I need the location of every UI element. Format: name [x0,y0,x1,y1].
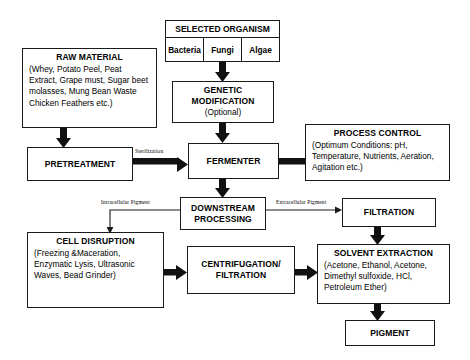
arrow-filtration-to-solvent [370,227,385,245]
solvent-extraction-body: (Acetone, Ethanol, Acetone, Dimethyl sul… [320,260,447,294]
edge-label-sterilization: Sterilization [135,148,163,154]
cell-disruption-body: (Freezing &Maceration, Enzymatic Lysis, … [30,248,161,282]
arrow-organism-to-genetic [215,61,230,82]
downstream-processing-title-line2: PROCESSING [194,214,252,225]
organism-cell-fungi[interactable]: Fungi [204,38,242,61]
organism-cell-bacteria[interactable]: Bacteria [166,38,204,61]
node-filtration[interactable]: FILTRATION [342,198,436,227]
arrow-celldisruption-to-centrifugation [164,265,187,280]
arrow-downstream-to-filtration [266,207,342,214]
node-selected-organism[interactable]: SELECTED ORGANISM Bacteria Fungi Algae [165,20,280,62]
node-fermenter[interactable]: FERMENTER [188,143,279,179]
node-raw-material[interactable]: RAW MATERIAL (Whey, Potato Peel, Peat Ex… [22,48,157,128]
genetic-modification-title-line2: MODIFICATION [192,96,255,107]
genetic-modification-subtitle: (Optional) [173,107,273,118]
node-pigment[interactable]: PIGMENT [345,320,435,346]
edge-label-extracellular-pigment: Extracellular Pigment [276,199,326,205]
raw-material-title: RAW MATERIAL [25,52,154,63]
process-control-title: PROCESS CONTROL [308,128,447,139]
node-genetic-modification[interactable]: GENETIC MODIFICATION (Optional) [172,81,274,123]
downstream-processing-title-line1: DOWNSTREAM [191,203,255,214]
arrow-rawmaterial-to-pretreatment [56,128,71,148]
pigment-production-flowchart: SELECTED ORGANISM Bacteria Fungi Algae R… [0,0,470,360]
arrow-genetic-to-fermenter [215,123,230,143]
node-centrifugation-filtration[interactable]: CENTRIFUGATION/ FILTRATION [187,246,295,294]
centrifugation-title-line1: CENTRIFUGATION/ [201,259,280,270]
node-pretreatment[interactable]: PRETREATMENT [27,147,133,181]
centrifugation-title-line2: FILTRATION [216,270,266,281]
process-control-body: (Optimum Conditions: pH, Temperature, Nu… [308,140,447,174]
arrow-pretreatment-to-fermenter [133,157,188,172]
solvent-extraction-title: SOLVENT EXTRACTION [320,248,447,259]
node-process-control[interactable]: PROCESS CONTROL (Optimum Conditions: pH,… [305,124,450,181]
pretreatment-title: PRETREATMENT [45,159,115,170]
genetic-modification-title-line1: GENETIC [204,85,242,96]
arrow-centrifugation-to-solvent [295,265,318,280]
arrow-fermenter-to-downstream [215,179,230,198]
organism-cell-algae[interactable]: Algae [242,38,279,61]
selected-organism-row: Bacteria Fungi Algae [166,38,279,61]
raw-material-body: (Whey, Potato Peel, Peat Extract, Grape … [25,64,154,109]
edge-label-intracellular-pigment: Intracellular Pigment [101,199,150,205]
arrow-downstream-to-celldisruption [107,210,180,234]
node-solvent-extraction[interactable]: SOLVENT EXTRACTION (Acetone, Ethanol, Ac… [317,244,450,304]
selected-organism-title: SELECTED ORGANISM [166,21,279,38]
node-downstream-processing[interactable]: DOWNSTREAM PROCESSING [180,197,266,230]
node-cell-disruption[interactable]: CELL DISRUPTION (Freezing &Maceration, E… [27,232,164,308]
arrow-solvent-to-pigment [370,303,385,321]
fermenter-title: FERMENTER [207,156,261,167]
cell-disruption-title: CELL DISRUPTION [30,236,161,247]
pigment-title: PIGMENT [370,328,409,339]
filtration-title: FILTRATION [364,207,414,218]
